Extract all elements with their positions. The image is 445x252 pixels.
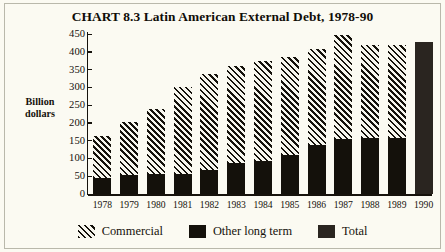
y-axis-tick-label: 100 [69, 152, 85, 164]
bar-group[interactable] [388, 34, 406, 194]
x-axis-tick-label: 1990 [410, 199, 438, 210]
legend-swatch-total [318, 225, 335, 238]
x-axis-tick-label: 1984 [249, 199, 277, 210]
chart-legend: CommercialOther long termTotal [0, 224, 445, 239]
y-axis-tick: 0 [40, 188, 92, 200]
bar-segment-commercial[interactable] [120, 122, 138, 175]
bar-segment-other-long-term[interactable] [254, 161, 272, 194]
legend-item-label: Commercial [102, 224, 163, 239]
x-axis-tick-label: 1979 [115, 199, 143, 210]
plot-area [88, 34, 436, 194]
bar-group[interactable] [361, 34, 379, 194]
y-axis-tick: 250 [40, 99, 92, 111]
bar-segment-commercial[interactable] [254, 61, 272, 161]
bar-group[interactable] [120, 34, 138, 194]
bar-group[interactable] [93, 34, 111, 194]
legend-item-label: Other long term [213, 224, 292, 239]
bar-segment-other-long-term[interactable] [147, 174, 165, 194]
y-axis-tick-label: 150 [69, 135, 85, 147]
bar-segment-total[interactable] [415, 42, 433, 194]
bar-segment-other-long-term[interactable] [174, 174, 192, 194]
y-axis-tick-label: 350 [69, 64, 85, 76]
chart-title: CHART 8.3 Latin American External Debt, … [0, 9, 445, 25]
y-axis-tick: 200 [40, 117, 92, 129]
bar-segment-commercial[interactable] [147, 109, 165, 175]
legend-swatch-commercial [78, 225, 95, 238]
x-axis-tick-label: 1986 [303, 199, 331, 210]
bar-group[interactable] [147, 34, 165, 194]
x-axis-tick-label: 1978 [88, 199, 116, 210]
y-axis-tick: 150 [40, 135, 92, 147]
y-axis-tick-label: 0 [80, 188, 85, 200]
bar-segment-other-long-term[interactable] [281, 155, 299, 194]
bar-group[interactable] [415, 34, 433, 194]
bar-group[interactable] [174, 34, 192, 194]
y-axis-tick-label: 400 [69, 46, 85, 58]
y-axis-tick: 100 [40, 152, 92, 164]
x-axis-tick-label: 1988 [356, 199, 384, 210]
bar-group[interactable] [200, 34, 218, 194]
bar-segment-commercial[interactable] [227, 66, 245, 163]
bar-segment-commercial[interactable] [174, 87, 192, 174]
x-axis-tick-label: 1983 [222, 199, 250, 210]
bar-segment-other-long-term[interactable] [93, 178, 111, 194]
bar-segment-other-long-term[interactable] [308, 145, 326, 194]
bar-group[interactable] [308, 34, 326, 194]
bar-group[interactable] [334, 34, 352, 194]
legend-item-label: Total [342, 224, 367, 239]
bar-segment-commercial[interactable] [200, 74, 218, 170]
bar-segment-other-long-term[interactable] [227, 163, 245, 194]
y-axis-tick-label: 50 [74, 170, 85, 182]
bar-segment-commercial[interactable] [334, 35, 352, 139]
bar-segment-other-long-term[interactable] [361, 138, 379, 194]
bar-segment-other-long-term[interactable] [200, 170, 218, 194]
y-axis-tick: 350 [40, 64, 92, 76]
bar-segment-commercial[interactable] [361, 45, 379, 138]
bar-segment-commercial[interactable] [308, 49, 326, 145]
x-axis-tick-label: 1982 [195, 199, 223, 210]
bar-group[interactable] [254, 34, 272, 194]
x-axis-tick-label: 1985 [276, 199, 304, 210]
chart-figure: CHART 8.3 Latin American External Debt, … [0, 0, 445, 252]
bar-segment-commercial[interactable] [93, 136, 111, 178]
y-axis-tick: 50 [40, 170, 92, 182]
legend-item[interactable]: Commercial [78, 224, 163, 239]
y-axis-tick: 300 [40, 81, 92, 93]
x-axis-tick-label: 1980 [142, 199, 170, 210]
y-axis-tick-label: 450 [69, 28, 85, 40]
y-axis-tick-label: 250 [69, 99, 85, 111]
y-axis-tick: 450 [40, 28, 92, 40]
bar-group[interactable] [281, 34, 299, 194]
bar-segment-other-long-term[interactable] [120, 175, 138, 194]
bar-segment-other-long-term[interactable] [388, 138, 406, 194]
legend-swatch-other-long-term [189, 225, 206, 238]
bar-segment-commercial[interactable] [388, 45, 406, 137]
x-axis-tick-label: 1987 [329, 199, 357, 210]
y-axis-tick: 400 [40, 46, 92, 58]
legend-item[interactable]: Other long term [189, 224, 292, 239]
y-axis-tick-label: 300 [69, 81, 85, 93]
bar-segment-commercial[interactable] [281, 57, 299, 155]
x-axis-tick-label: 1989 [383, 199, 411, 210]
x-axis-tick-label: 1981 [169, 199, 197, 210]
bar-group[interactable] [227, 34, 245, 194]
bar-segment-other-long-term[interactable] [334, 139, 352, 194]
y-axis-tick-label: 200 [69, 117, 85, 129]
legend-item[interactable]: Total [318, 224, 367, 239]
